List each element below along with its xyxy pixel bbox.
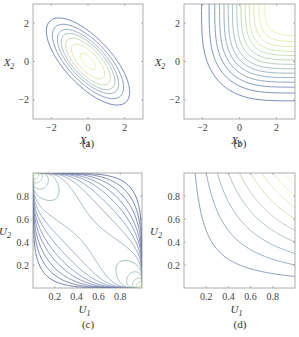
contour-lines bbox=[46, 18, 129, 105]
y-tick-label: 0.6 bbox=[168, 214, 181, 225]
plot-frame bbox=[184, 4, 295, 119]
caption-c: (c) bbox=[58, 318, 118, 330]
y-tick-label: 0.2 bbox=[17, 260, 30, 271]
y-axis-label: U2 bbox=[0, 225, 11, 240]
y-tick-label: 0 bbox=[24, 56, 29, 67]
x-tick-label: 2 bbox=[274, 122, 279, 133]
y-tick-label: 0.6 bbox=[17, 214, 30, 225]
contour-lines bbox=[33, 173, 142, 288]
panel-c: 0.20.40.60.80.20.40.60.8U1U2 bbox=[0, 173, 142, 318]
caption-d: (d) bbox=[210, 318, 270, 330]
y-axis-label: X2 bbox=[3, 56, 15, 71]
y-tick-label: −2 bbox=[169, 94, 180, 105]
x-tick-label: −2 bbox=[46, 122, 57, 133]
contour-lines bbox=[195, 173, 295, 277]
x-tick-label: 0.2 bbox=[49, 291, 62, 302]
y-axis-label: X2 bbox=[154, 56, 166, 71]
x-tick-label: 0 bbox=[86, 122, 91, 133]
contour-lines bbox=[202, 4, 296, 101]
x-tick-label: 0 bbox=[237, 122, 242, 133]
y-tick-label: 2 bbox=[175, 18, 180, 29]
caption-b: (b) bbox=[210, 137, 270, 149]
panel-d: 0.20.40.60.80.20.40.60.8U1U2 bbox=[150, 173, 295, 318]
x-axis-label: U1 bbox=[79, 303, 91, 318]
y-tick-label: −2 bbox=[18, 94, 29, 105]
x-tick-label: 0.6 bbox=[92, 291, 105, 302]
x-tick-label: 0.4 bbox=[222, 291, 235, 302]
y-axis-label: U2 bbox=[150, 225, 162, 240]
x-axis-label: U1 bbox=[231, 303, 243, 318]
x-tick-label: 0.4 bbox=[70, 291, 83, 302]
x-tick-label: 2 bbox=[122, 122, 127, 133]
caption-a: (a) bbox=[58, 137, 118, 149]
y-tick-label: 2 bbox=[24, 18, 29, 29]
x-tick-label: −2 bbox=[197, 122, 208, 133]
plot-frame bbox=[184, 173, 295, 288]
panel-a: −202−202X1X2 bbox=[3, 4, 143, 149]
panel-b: −202−202X1X2 bbox=[154, 4, 295, 149]
y-tick-label: 0.2 bbox=[168, 260, 181, 271]
y-tick-label: 0.4 bbox=[168, 237, 181, 248]
y-tick-label: 0.4 bbox=[17, 237, 30, 248]
figure-canvas: −202−202X1X2−202−202X1X20.20.40.60.80.20… bbox=[0, 0, 299, 337]
plot-frame bbox=[33, 173, 142, 288]
y-tick-label: 0 bbox=[175, 56, 180, 67]
x-tick-label: 0.8 bbox=[114, 291, 127, 302]
x-tick-label: 0.8 bbox=[267, 291, 280, 302]
y-tick-label: 0.8 bbox=[17, 191, 30, 202]
y-tick-label: 0.8 bbox=[168, 191, 181, 202]
x-tick-label: 0.2 bbox=[200, 291, 213, 302]
x-tick-label: 0.6 bbox=[244, 291, 257, 302]
